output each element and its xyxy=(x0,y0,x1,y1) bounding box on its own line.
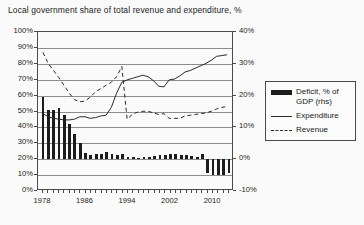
left-axis-tick xyxy=(34,142,37,143)
x-axis-tick xyxy=(53,190,54,193)
legend-item-revenue: Revenue xyxy=(271,125,351,135)
revenue-line xyxy=(43,52,227,119)
x-axis-tick xyxy=(154,190,155,193)
chart-legend: Deficit, % of GDP (rhs) Expenditure Reve… xyxy=(265,81,356,141)
chart-container: Local government share of total revenue … xyxy=(0,0,364,225)
left-axis-tick xyxy=(34,190,37,191)
x-axis-tick-label: 2010 xyxy=(196,196,228,205)
x-axis-tick xyxy=(212,190,213,193)
x-axis-tick xyxy=(228,190,229,193)
chart-title: Local government share of total revenue … xyxy=(8,5,242,15)
right-axis-tick-label: 40% xyxy=(239,26,254,35)
x-axis-tick xyxy=(201,190,202,193)
right-axis-tick xyxy=(233,158,236,159)
x-axis-tick xyxy=(159,190,160,193)
left-axis-tick xyxy=(34,158,37,159)
left-axis-tick-label: 30% xyxy=(0,137,33,146)
right-axis-tick-label: 30% xyxy=(239,58,254,67)
right-axis-tick xyxy=(233,190,236,191)
x-axis-tick-label: 2002 xyxy=(154,196,186,205)
x-axis-tick xyxy=(95,190,96,193)
left-axis-tick-label: 50% xyxy=(0,106,33,115)
left-axis-tick-label: 0% xyxy=(0,185,33,194)
x-axis-tick xyxy=(74,190,75,193)
x-axis-tick xyxy=(217,190,218,193)
legend-item-expenditure: Expenditure xyxy=(271,111,351,121)
right-axis-tick-label: -10% xyxy=(239,185,257,194)
x-axis-tick xyxy=(170,190,171,193)
lines-layer xyxy=(38,32,232,189)
expenditure-line xyxy=(43,55,227,120)
left-axis-tick xyxy=(34,95,37,96)
x-axis-tick xyxy=(127,190,128,193)
x-axis-tick-label: 1994 xyxy=(111,196,143,205)
left-axis-tick-label: 70% xyxy=(0,74,33,83)
left-axis-tick-label: 80% xyxy=(0,58,33,67)
x-axis-tick xyxy=(122,190,123,193)
x-axis-tick xyxy=(186,190,187,193)
bar-swatch-icon xyxy=(271,87,292,97)
x-axis-tick xyxy=(148,190,149,193)
plot-area xyxy=(37,31,233,190)
solid-line-swatch-icon xyxy=(271,111,292,121)
right-axis-tick-label: 10% xyxy=(239,121,254,130)
x-axis-tick xyxy=(116,190,117,193)
x-axis-tick xyxy=(47,190,48,193)
left-axis-tick-label: 100% xyxy=(0,26,33,35)
x-axis-tick xyxy=(85,190,86,193)
x-axis-tick-label: 1978 xyxy=(26,196,58,205)
x-axis-tick xyxy=(138,190,139,193)
legend-label-revenue: Revenue xyxy=(296,125,328,135)
right-axis-tick xyxy=(233,95,236,96)
x-axis-tick xyxy=(191,190,192,193)
left-axis-tick xyxy=(34,126,37,127)
x-axis-tick xyxy=(180,190,181,193)
left-axis-tick xyxy=(34,79,37,80)
x-axis-tick xyxy=(143,190,144,193)
x-axis-tick xyxy=(58,190,59,193)
x-axis-tick xyxy=(207,190,208,193)
left-axis-tick xyxy=(34,111,37,112)
x-axis-tick-label: 1986 xyxy=(69,196,101,205)
left-axis-tick xyxy=(34,174,37,175)
x-axis-tick xyxy=(175,190,176,193)
x-axis-tick xyxy=(196,190,197,193)
dashed-line-swatch-icon xyxy=(271,125,292,135)
legend-item-deficit: Deficit, % of GDP (rhs) xyxy=(271,87,351,107)
right-axis-tick xyxy=(233,126,236,127)
x-axis-tick xyxy=(42,190,43,193)
left-axis-tick-label: 90% xyxy=(0,42,33,51)
x-axis-tick xyxy=(106,190,107,193)
right-axis-tick xyxy=(233,63,236,64)
left-axis-tick-label: 10% xyxy=(0,169,33,178)
x-axis-tick xyxy=(164,190,165,193)
x-axis-tick xyxy=(69,190,70,193)
legend-label-deficit: Deficit, % of GDP (rhs) xyxy=(296,87,351,107)
x-axis-tick xyxy=(90,190,91,193)
legend-label-expenditure: Expenditure xyxy=(296,111,339,121)
right-axis-tick xyxy=(233,31,236,32)
left-axis-tick-label: 20% xyxy=(0,153,33,162)
left-axis-tick-label: 60% xyxy=(0,90,33,99)
right-axis-tick-label: 20% xyxy=(239,90,254,99)
left-axis-tick xyxy=(34,31,37,32)
right-axis-tick-label: 0% xyxy=(239,153,250,162)
x-axis-tick xyxy=(132,190,133,193)
left-axis-tick xyxy=(34,47,37,48)
left-axis-tick-label: 40% xyxy=(0,121,33,130)
x-axis-tick xyxy=(79,190,80,193)
x-axis-tick xyxy=(63,190,64,193)
left-axis-tick xyxy=(34,63,37,64)
x-axis-tick xyxy=(111,190,112,193)
x-axis-tick xyxy=(101,190,102,193)
x-axis-tick xyxy=(223,190,224,193)
